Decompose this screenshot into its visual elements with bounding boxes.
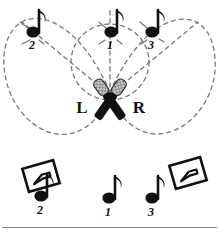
top-source-3-number: 3 [147,38,154,52]
bottom-source-1-number: 1 [105,205,111,219]
xy-microphone-pair: L R [76,77,146,121]
stereo-mic-diagram: 2 1 3 L R 2 [0,0,219,234]
bottom-source-2-number: 2 [36,203,43,217]
bottom-source-3: 3 [145,176,164,219]
top-source-2: 2 [26,10,45,52]
polar-pattern-right [110,19,215,134]
top-source-3: 3 [145,10,164,52]
top-source-1: 1 [104,10,123,52]
bottom-source-3-number: 3 [147,205,154,219]
bottom-source-1: 1 [102,176,121,219]
top-source-2-number: 2 [28,38,35,52]
top-source-1-number: 1 [107,38,113,52]
monitor-right [169,157,206,189]
diagram-canvas: 2 1 3 L R 2 [0,0,219,234]
monitor-left [22,160,59,192]
polar-pattern-left [4,18,110,134]
channel-label-right: R [133,98,146,117]
channel-label-left: L [76,98,87,117]
